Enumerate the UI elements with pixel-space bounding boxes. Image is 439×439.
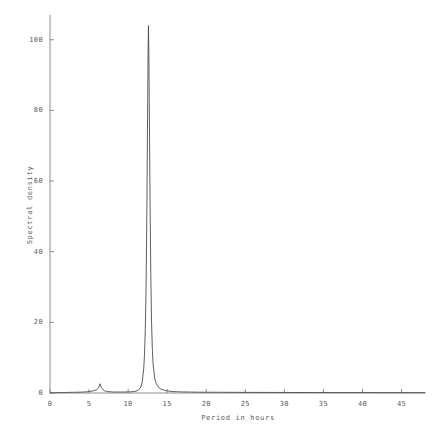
x-tick-label: 35 [319, 400, 328, 408]
x-tick-label: 15 [163, 400, 172, 408]
x-axis-title: Period in hours [201, 414, 275, 422]
plot-canvas [0, 0, 439, 439]
data-series-group [50, 26, 425, 393]
y-tick-label: 20 [0, 318, 43, 326]
x-tick-label: 45 [397, 400, 406, 408]
y-axis-title: Spectral density [26, 166, 34, 245]
y-tick-label: 40 [0, 248, 43, 256]
x-tick-label: 0 [48, 400, 53, 408]
y-tick-label: 60 [0, 177, 43, 185]
spectral-density-chart: 051015202530354045 020406080100 Period i… [0, 0, 439, 439]
x-tick-label: 30 [280, 400, 289, 408]
y-tick-label: 100 [0, 36, 43, 44]
y-tick-label: 80 [0, 106, 43, 114]
spectral-density-line [50, 26, 425, 393]
x-tick-label: 5 [87, 400, 92, 408]
axes-group [50, 15, 425, 393]
x-tick-label: 25 [241, 400, 250, 408]
x-tick-label: 20 [202, 400, 211, 408]
y-axis-ticks [50, 40, 54, 393]
x-tick-label: 40 [358, 400, 367, 408]
x-tick-label: 10 [124, 400, 133, 408]
y-tick-label: 0 [0, 389, 43, 397]
